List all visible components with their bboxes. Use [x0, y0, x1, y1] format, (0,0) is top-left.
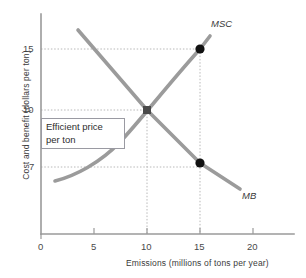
mb-curve-label: MB [242, 190, 256, 201]
marker-mb-15-7 [195, 158, 204, 167]
x-tick-label-20: 20 [247, 241, 258, 252]
x-tick-label-5: 5 [91, 241, 96, 252]
x-tick-label-10: 10 [141, 241, 152, 252]
efficient-price-annotation-line-1: Efficient price [46, 121, 121, 134]
y-axis-title: Cost and benefit (dollars per ton) [21, 50, 31, 180]
msc-curve-label: MSC [211, 18, 232, 29]
x-tick-label-0: 0 [38, 241, 43, 252]
efficient-price-annotation-line-2: per ton [46, 134, 121, 147]
efficient-price-annotation-box: Efficient price per ton [41, 118, 125, 149]
x-tick-label-15: 15 [194, 241, 205, 252]
x-axis-title: Emissions (millions of tons per year) [126, 258, 269, 268]
marker-intersection-10-10 [143, 106, 151, 114]
y-axis-title-wrap: Cost and benefit (dollars per ton) [15, 15, 29, 215]
emissions-cost-benefit-chart: 15 10 7 0 5 10 15 20 MSC MB Efficient pr… [0, 0, 306, 278]
mb-curve [78, 30, 240, 189]
msc-curve [55, 36, 210, 181]
marker-msc-15-15 [195, 44, 204, 53]
